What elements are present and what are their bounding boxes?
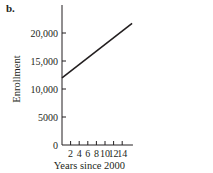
x-tick-label: 8: [94, 148, 99, 159]
y-tick-label: 20,000: [31, 28, 59, 39]
x-tick-label: 4: [77, 148, 82, 159]
y-tick-label: 10,000: [31, 84, 59, 95]
y-tick-label: 0: [53, 140, 58, 151]
data-line: [62, 23, 132, 77]
y-tick-label: 5000: [38, 112, 58, 123]
x-tick-label: 14: [117, 148, 127, 159]
y-tick-label: 15,000: [31, 56, 59, 67]
x-tick-label: 2: [68, 148, 73, 159]
x-tick-label: 6: [85, 148, 90, 159]
x-axis-label: Years since 2000: [54, 160, 125, 171]
y-axis-label: Enrollment: [11, 55, 22, 102]
line-chart: 0500010,00015,00020,0002468101214Years s…: [0, 0, 213, 173]
